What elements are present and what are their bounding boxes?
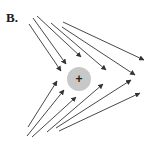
diagram-canvas: + — [0, 0, 153, 150]
field-lines-diagram: B. + — [0, 0, 153, 150]
field-arrow-lower-10 — [56, 80, 131, 128]
field-arrow-upper-2 — [37, 16, 81, 57]
field-arrow-lower-11 — [59, 93, 140, 131]
plus-sign-icon: + — [75, 72, 82, 86]
field-arrow-lower-9 — [47, 84, 103, 132]
field-arrow-upper-0 — [29, 24, 61, 71]
field-arrow-upper-1 — [33, 18, 66, 64]
panel-label: B. — [6, 10, 18, 26]
field-arrow-upper-3 — [51, 23, 106, 70]
